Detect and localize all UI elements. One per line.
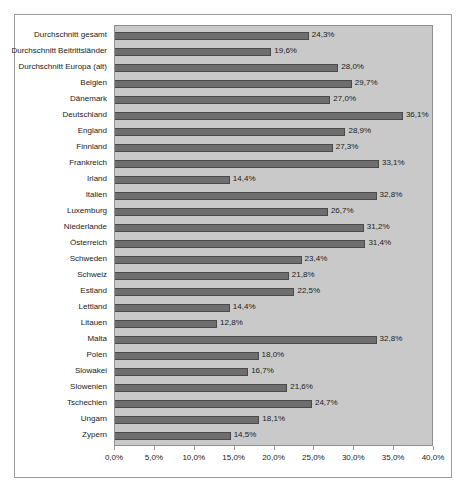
- category-label: Italien: [86, 187, 107, 203]
- bar: [115, 272, 289, 280]
- category-label: Polen: [87, 347, 107, 363]
- bar: [115, 384, 287, 392]
- x-axis-tick: [114, 446, 115, 450]
- bar: [115, 144, 333, 152]
- bar: [115, 224, 364, 232]
- bar-row: 24,3%: [115, 28, 432, 44]
- bar-row: 27,0%: [115, 92, 432, 108]
- bar-row: 18,1%: [115, 412, 432, 428]
- bar-row: 14,4%: [115, 300, 432, 316]
- category-label: Frankreich: [69, 155, 107, 171]
- x-axis-tick-label: 20,0%: [262, 452, 285, 463]
- category-label: Lettland: [79, 299, 107, 315]
- bar-value-label: 23,4%: [305, 253, 328, 265]
- category-label: Ungarn: [81, 411, 107, 427]
- bar-value-label: 21,8%: [292, 269, 315, 281]
- x-axis-tick-label: 30,0%: [342, 452, 365, 463]
- bar-series: 24,3%19,6%28,0%29,7%27,0%36,1%28,9%27,3%…: [115, 26, 432, 445]
- x-axis-tick-label: 15,0%: [222, 452, 245, 463]
- category-label: Durchschnitt gesamt: [34, 27, 107, 43]
- bar-row: 33,1%: [115, 156, 432, 172]
- bar-value-label: 26,7%: [331, 205, 354, 217]
- category-label: Tschechien: [67, 395, 107, 411]
- x-axis-tick: [313, 446, 314, 450]
- bar-row: 16,7%: [115, 364, 432, 380]
- bar: [115, 320, 217, 328]
- x-axis-tick-label: 40,0%: [422, 452, 445, 463]
- bar-row: 31,2%: [115, 220, 432, 236]
- bar-row: 27,3%: [115, 140, 432, 156]
- category-label: Durchschnitt Europa (alt): [19, 59, 107, 75]
- category-label: Zypern: [82, 427, 107, 443]
- bar-value-label: 28,9%: [348, 125, 371, 137]
- bar-row: 22,5%: [115, 284, 432, 300]
- bar-value-label: 32,8%: [380, 189, 403, 201]
- category-label: Niederlande: [64, 219, 107, 235]
- category-axis-labels: Durchschnitt gesamtDurchschnitt Beitritt…: [15, 25, 111, 446]
- bar-value-label: 16,7%: [251, 365, 274, 377]
- bar-value-label: 27,3%: [336, 141, 359, 153]
- x-axis-tick: [393, 446, 394, 450]
- bar: [115, 32, 309, 40]
- bar: [115, 64, 338, 72]
- bar: [115, 256, 302, 264]
- bar-row: 26,7%: [115, 204, 432, 220]
- bar-row: 18,0%: [115, 348, 432, 364]
- bar-value-label: 14,5%: [234, 429, 257, 441]
- bar-value-label: 31,4%: [368, 237, 391, 249]
- x-axis-tick: [194, 446, 195, 450]
- bar-value-label: 27,0%: [333, 93, 356, 105]
- bar-value-label: 31,2%: [367, 221, 390, 233]
- x-axis-tick: [154, 446, 155, 450]
- bar-row: 24,7%: [115, 396, 432, 412]
- category-label: Österreich: [70, 235, 107, 251]
- bar-row: 14,4%: [115, 172, 432, 188]
- bar-value-label: 24,3%: [312, 29, 335, 41]
- bar: [115, 240, 365, 248]
- bar-value-label: 18,0%: [262, 349, 285, 361]
- bar: [115, 368, 248, 376]
- category-label: Durchschnitt Beitrittsländer: [11, 43, 107, 59]
- category-label: Malta: [87, 331, 107, 347]
- category-label: Litauen: [81, 315, 107, 331]
- x-axis-tick: [353, 446, 354, 450]
- bar: [115, 416, 259, 424]
- category-label: Slowenien: [70, 379, 107, 395]
- bar-row: 14,5%: [115, 428, 432, 444]
- category-label: Slowakei: [75, 363, 107, 379]
- bar: [115, 160, 379, 168]
- category-label: England: [78, 123, 107, 139]
- bar-value-label: 14,4%: [233, 173, 256, 185]
- bar-row: 29,7%: [115, 76, 432, 92]
- bar-value-label: 18,1%: [262, 413, 285, 425]
- x-axis-tick: [274, 446, 275, 450]
- bar: [115, 208, 328, 216]
- bar: [115, 48, 271, 56]
- x-axis-tick: [433, 446, 434, 450]
- x-axis-tick-label: 25,0%: [302, 452, 325, 463]
- bar-row: 36,1%: [115, 108, 432, 124]
- bar-value-label: 36,1%: [406, 109, 429, 121]
- category-label: Irland: [87, 171, 107, 187]
- bar-row: 23,4%: [115, 252, 432, 268]
- bar-row: 19,6%: [115, 44, 432, 60]
- bar-value-label: 28,0%: [341, 61, 364, 73]
- bar-value-label: 14,4%: [233, 301, 256, 313]
- bar-value-label: 32,8%: [380, 333, 403, 345]
- x-axis-tick-label: 35,0%: [382, 452, 405, 463]
- bar-row: 32,8%: [115, 188, 432, 204]
- chart-frame: Durchschnitt gesamtDurchschnitt Beitritt…: [14, 14, 452, 478]
- bar: [115, 400, 312, 408]
- x-axis-tick: [234, 446, 235, 450]
- bar-value-label: 22,5%: [297, 285, 320, 297]
- bar-row: 31,4%: [115, 236, 432, 252]
- bar-row: 12,8%: [115, 316, 432, 332]
- plot-area: 24,3%19,6%28,0%29,7%27,0%36,1%28,9%27,3%…: [114, 25, 433, 446]
- category-label: Schweden: [70, 251, 107, 267]
- bar: [115, 336, 377, 344]
- category-label: Belgien: [80, 75, 107, 91]
- category-label: Luxemburg: [67, 203, 107, 219]
- bar-row: 21,8%: [115, 268, 432, 284]
- bar: [115, 304, 230, 312]
- bar-row: 32,8%: [115, 332, 432, 348]
